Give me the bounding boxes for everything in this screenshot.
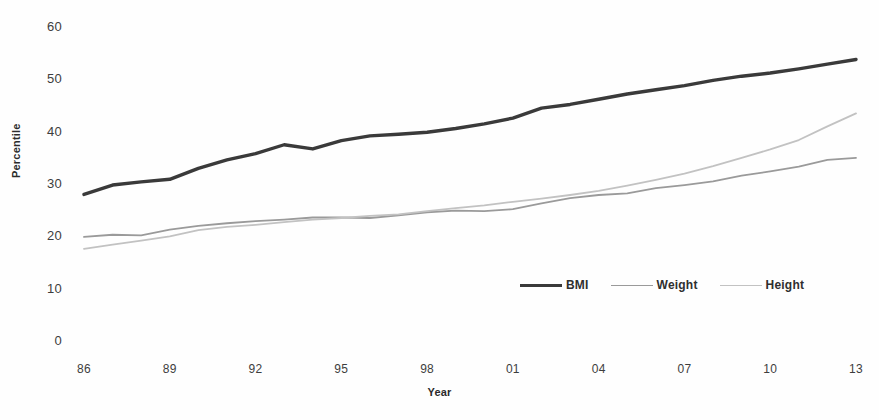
legend-item-weight[interactable]: Weight bbox=[611, 278, 698, 292]
series-line-bmi bbox=[84, 59, 856, 194]
series-line-height bbox=[84, 113, 856, 249]
series-line-weight bbox=[84, 158, 856, 237]
legend-swatch-bmi bbox=[520, 284, 562, 287]
chart-legend: BMIWeightHeight bbox=[520, 278, 804, 292]
x-axis-label: Year bbox=[0, 386, 879, 398]
legend-item-height[interactable]: Height bbox=[720, 278, 805, 292]
legend-label: BMI bbox=[566, 278, 589, 292]
figure-caption bbox=[0, 409, 879, 420]
legend-label: Weight bbox=[657, 278, 698, 292]
legend-label: Height bbox=[766, 278, 805, 292]
chart-figure: Percentile 0102030405060 868992959801040… bbox=[0, 0, 879, 420]
legend-swatch-height bbox=[720, 285, 762, 286]
legend-item-bmi[interactable]: BMI bbox=[520, 278, 589, 292]
legend-swatch-weight bbox=[611, 285, 653, 286]
plot-area bbox=[0, 0, 879, 420]
